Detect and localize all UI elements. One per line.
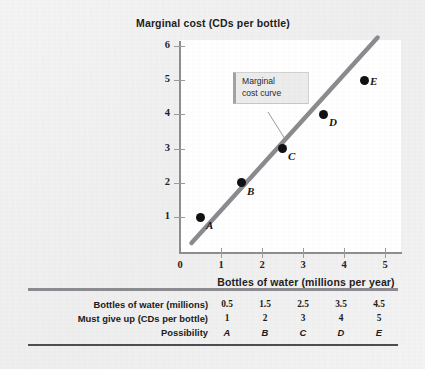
table-row-label: Bottles of water (millions)	[28, 297, 208, 311]
x-axis-tick	[221, 248, 222, 258]
x-axis-tick	[262, 248, 263, 258]
table-body: Bottles of water (millions) 0.5 1.5 2.5 …	[28, 291, 398, 342]
data-point-label-b: B	[247, 185, 254, 197]
table-cell: 2	[246, 311, 284, 325]
y-axis-tick	[174, 80, 185, 81]
x-axis-tick-label: 4	[333, 259, 355, 270]
y-axis-tick-label: 1	[148, 210, 170, 221]
table-cell: 1	[208, 311, 246, 325]
y-axis-tick-label: 4	[148, 107, 170, 118]
table-cell: A	[208, 325, 246, 339]
table-row: Bottles of water (millions) 0.5 1.5 2.5 …	[28, 297, 398, 311]
x-axis-tick	[385, 248, 386, 258]
table-cell: D	[322, 325, 360, 339]
y-axis-tick	[174, 217, 185, 218]
x-axis-tick	[303, 248, 304, 258]
x-axis-title: Bottles of water (millions per year)	[196, 276, 416, 288]
y-axis-tick	[174, 114, 185, 115]
chart-title: Marginal cost (CDs per bottle)	[136, 17, 386, 29]
callout-line-1: Marginal	[242, 76, 304, 88]
y-axis-tick-label: 3	[148, 142, 170, 153]
data-point-label-d: D	[329, 116, 337, 128]
table-row: Possibility A B C D E	[28, 325, 398, 339]
table-row-label: Must give up (CDs per bottle)	[28, 311, 208, 325]
table-bottom-rule	[28, 344, 398, 346]
table-cell: B	[246, 325, 284, 339]
data-point-a	[196, 213, 205, 222]
table-cell: 5	[360, 311, 398, 325]
x-axis-tick-label: 3	[292, 259, 314, 270]
table-cell: C	[284, 325, 322, 339]
data-point-e	[360, 76, 369, 85]
x-axis-tick-label: 5	[374, 259, 396, 270]
table-row: Must give up (CDs per bottle) 1 2 3 4 5	[28, 311, 398, 325]
y-axis-tick	[174, 149, 185, 150]
y-axis-tick-label: 5	[148, 73, 170, 84]
x-axis-tick	[344, 248, 345, 258]
table-cell: 1.5	[246, 297, 284, 311]
marginal-cost-curve-callout: Marginal cost curve	[233, 72, 309, 104]
x-axis-tick-label: 1	[210, 259, 232, 270]
y-axis-line	[179, 41, 181, 254]
y-axis-tick-label: 2	[148, 176, 170, 187]
y-axis-tick-label: 6	[148, 39, 170, 50]
table-cell: 2.5	[284, 297, 322, 311]
y-axis-tick	[174, 46, 185, 47]
data-point-label-a: A	[206, 219, 213, 231]
table-row-label: Possibility	[28, 325, 208, 339]
x-axis-tick-label: 0	[169, 259, 191, 270]
figure-container: Marginal cost (CDs per bottle) 6 5 4 3 2…	[0, 0, 425, 369]
data-point-label-c: C	[288, 150, 295, 162]
table-cell: 0.5	[208, 297, 246, 311]
callout-line-2: cost curve	[242, 88, 304, 100]
data-point-label-e: E	[370, 75, 377, 87]
table-cell: 3	[284, 311, 322, 325]
data-point-d	[319, 110, 328, 119]
table-cell: E	[360, 325, 398, 339]
data-table: Bottles of water (millions) 0.5 1.5 2.5 …	[28, 288, 398, 346]
x-axis-line	[179, 252, 402, 254]
table-cell: 4	[322, 311, 360, 325]
table-cell: 4.5	[360, 297, 398, 311]
x-axis-tick-label: 2	[251, 259, 273, 270]
y-axis-tick	[174, 183, 185, 184]
table-cell: 3.5	[322, 297, 360, 311]
